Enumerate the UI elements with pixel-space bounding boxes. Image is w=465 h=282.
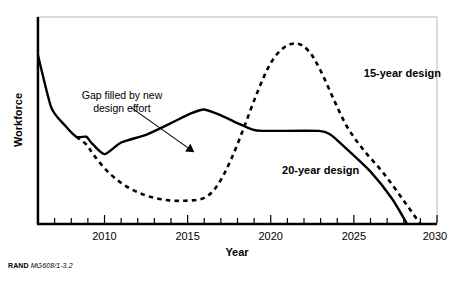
gap-annotation-line1: Gap filled by new [82, 89, 163, 101]
x-axis-tick-labels: 20102015202020252030 [92, 230, 447, 242]
x-axis-tick-label: 2030 [423, 230, 447, 242]
figure-credit: RAND MG608/1-3.2 [8, 262, 73, 269]
y-axis-title: Workforce [12, 93, 24, 147]
credit-brand: RAND [8, 262, 29, 269]
series-label-15-year-design: 15-year design [364, 67, 441, 79]
x-axis-tick-label: 2015 [175, 230, 199, 242]
x-axis-tick-label: 2020 [259, 230, 283, 242]
workforce-chart: 20102015202020252030 Year Workforce Gap … [0, 0, 465, 282]
gap-annotation-line2: design effort [93, 102, 151, 114]
x-axis-tick-label: 2025 [342, 230, 366, 242]
x-axis-title: Year [225, 246, 249, 258]
credit-code: MG608/1-3.2 [31, 262, 73, 269]
series-label-20-year-design: 20-year design [282, 164, 359, 176]
x-axis-tick-label: 2010 [92, 230, 116, 242]
plot-frame [37, 17, 437, 224]
